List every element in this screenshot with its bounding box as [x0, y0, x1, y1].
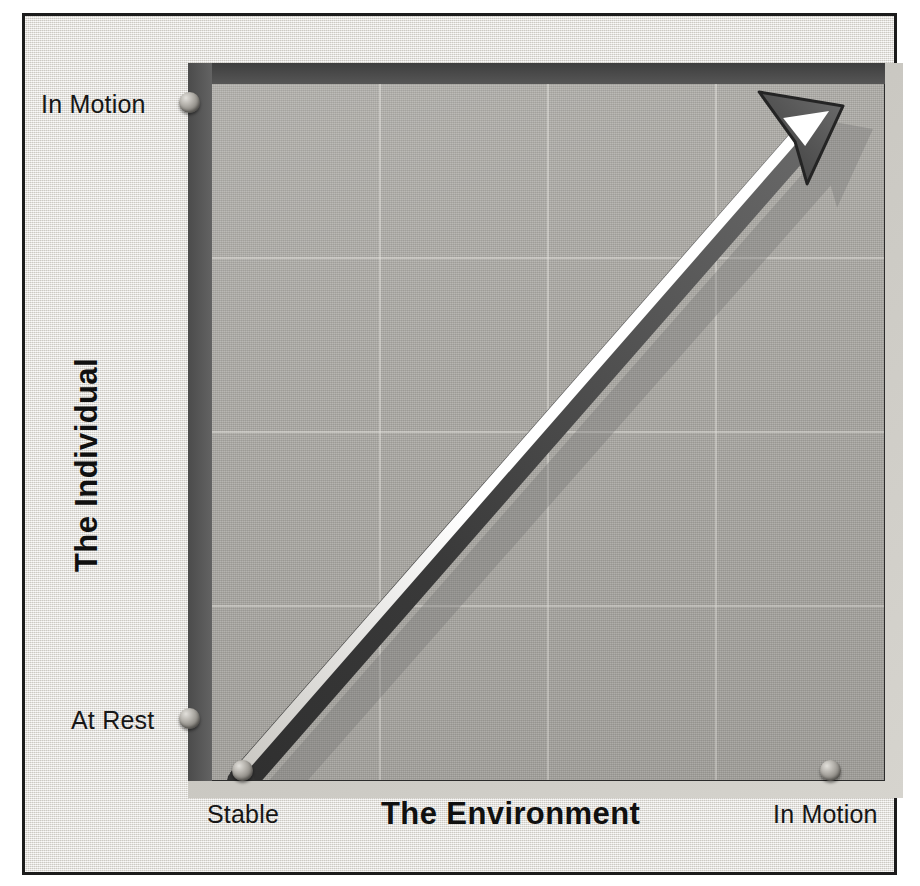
plot-frame [188, 63, 903, 798]
x-axis-title: The Environment [381, 796, 640, 832]
gridline-horizontal-3 [212, 605, 884, 607]
marker-sphere-x-high[interactable] [820, 760, 841, 781]
plot-area [212, 84, 885, 781]
y-axis-low-label: At Rest [71, 706, 154, 735]
frame-bevel-left-edge [188, 63, 212, 781]
gridline-horizontal-1 [212, 257, 884, 259]
marker-sphere-y-low[interactable] [179, 708, 200, 729]
y-axis-high-label: In Motion [41, 90, 146, 119]
frame-bevel-top-edge [188, 63, 885, 84]
arrow-shadow [260, 114, 873, 780]
y-axis-title: The Individual [69, 358, 105, 572]
figure-canvas: In Motion At Rest Stable In Motion The I… [0, 0, 920, 886]
marker-sphere-y-high[interactable] [179, 92, 200, 113]
x-axis-low-label: Stable [207, 800, 279, 829]
arrow-shaft [227, 112, 825, 780]
marker-sphere-x-low[interactable] [232, 760, 253, 781]
x-axis-high-label: In Motion [773, 800, 878, 829]
arrow-head [759, 92, 843, 184]
figure-paper-panel: In Motion At Rest Stable In Motion The I… [22, 13, 897, 875]
gridline-horizontal-2 [212, 431, 884, 433]
